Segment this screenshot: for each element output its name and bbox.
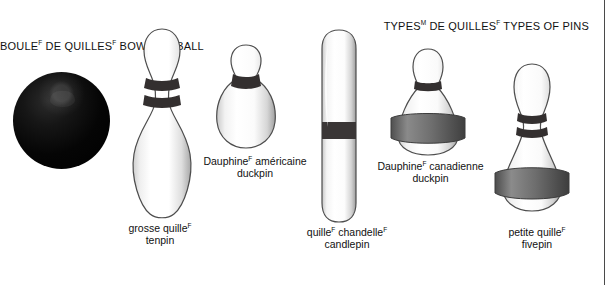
gender-superscript-f: F [383,225,387,232]
caption-fivepin: petite quilleF fivepin [462,223,611,251]
types-of-pins-title: TYPESM DE QUILLESF TYPES OF PINS [384,16,589,33]
caption-candlepin-en: candlepin [272,238,422,251]
caption-candlepin: quilleF chandelleF candlepin [272,223,422,251]
page-border-rule [604,0,605,285]
bowling-ball-title-fr: BOULEF DE QUILLESF [0,40,116,52]
caption-fivepin-fr: petite quilleF [508,226,565,238]
types-of-pins-title-en: TYPES OF PINS [503,20,589,32]
caption-duckpin-canadian-en: duckpin [358,172,503,185]
center-band [322,122,356,139]
caption-duckpin-us-fr: DauphineF américaine [203,155,306,167]
duckpin-us-illustration [211,42,281,152]
bowling-ball-finger-holes [50,91,75,107]
caption-tenpin-en: tenpin [75,234,245,247]
duckpin-canadian-illustration [386,46,470,158]
gender-superscript-f: F [496,19,500,26]
bowling-ball [13,72,110,169]
caption-tenpin: grosse quilleF tenpin [75,219,245,247]
caption-duckpin-us: DauphineF américaine duckpin [185,152,325,180]
caption-tenpin-fr: grosse quilleF [129,222,192,234]
caption-duckpin-us-en: duckpin [185,167,325,180]
caption-duckpin-canadian: DauphineF canadienne duckpin [358,157,503,185]
tenpin-illustration [124,26,200,221]
caption-duckpin-canadian-fr: DauphineF canadienne [377,160,483,172]
rubber-band [495,168,569,199]
rubber-band [391,114,465,144]
gender-superscript-f: F [562,225,566,232]
bowling-ball-title: BOULEF DE QUILLESF BOWLING BALL [0,36,132,53]
fivepin-illustration [489,61,575,219]
gender-superscript-f: F [112,39,116,46]
candlepin-illustration [312,27,366,225]
caption-candlepin-fr: quilleF chandelleF [307,226,387,238]
illustration-plate: BOULEF DE QUILLESF BOWLING BALL TYPESM D… [0,0,611,285]
types-of-pins-title-fr: TYPESM DE QUILLESF [384,20,501,32]
gender-superscript-f: F [187,221,191,228]
caption-fivepin-en: fivepin [462,238,611,251]
